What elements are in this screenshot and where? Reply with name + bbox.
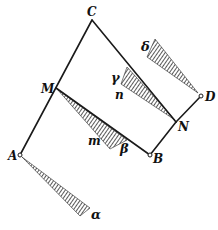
edge-CN	[92, 20, 176, 122]
edge-NB	[150, 122, 176, 155]
label-m: m	[88, 134, 101, 148]
label-point-A: A	[7, 149, 17, 163]
label-n: n	[115, 88, 124, 102]
point-A	[18, 153, 22, 157]
label-angle-alpha: α	[91, 207, 101, 222]
label-angle-delta: δ	[140, 39, 150, 54]
point-D	[199, 94, 203, 98]
label-angle-beta: β	[119, 141, 129, 156]
edge-MB	[56, 88, 150, 155]
label-point-N: N	[177, 120, 190, 134]
label-angle-gamma: γ	[111, 70, 121, 85]
hatched-sector-alpha	[22, 157, 90, 216]
edge-ND	[176, 96, 201, 122]
point-B	[148, 153, 152, 157]
label-point-C: C	[87, 5, 97, 19]
hatched-sector-delta	[147, 39, 198, 93]
label-point-B: B	[152, 152, 163, 166]
label-point-D: D	[204, 90, 216, 104]
label-point-M: M	[40, 82, 55, 96]
geometry-diagram: CMABNDαβγδmn	[0, 0, 218, 230]
